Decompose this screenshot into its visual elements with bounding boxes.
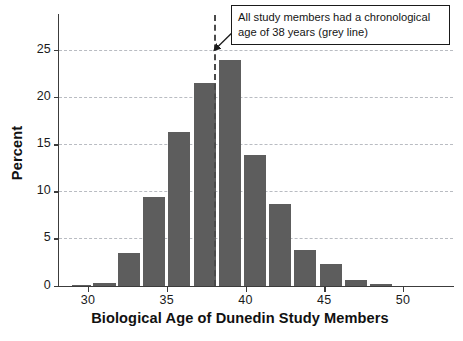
x-tick-label-30: 30 <box>68 293 108 307</box>
histogram-bar <box>269 204 291 286</box>
histogram-bar <box>93 283 117 286</box>
x-tick-mark-30 <box>88 287 89 292</box>
histogram-bar <box>168 132 190 286</box>
histogram-figure: 0510152025 3035404550 All study members … <box>0 0 463 341</box>
x-tick-label-40: 40 <box>226 293 266 307</box>
x-tick-mark-50 <box>403 287 404 292</box>
histogram-bar <box>194 83 216 286</box>
annotation-line-1: All study members had a chronological <box>238 10 443 25</box>
x-tick-mark-40 <box>246 287 247 292</box>
x-tick-mark-35 <box>167 287 168 292</box>
x-tick-label-50: 50 <box>383 293 423 307</box>
histogram-bar <box>320 264 342 286</box>
y-axis-title: Percent <box>9 93 25 213</box>
annotation-callout: All study members had a chronological ag… <box>231 5 450 45</box>
histogram-bar <box>72 285 91 286</box>
x-tick-label-35: 35 <box>147 293 187 307</box>
histogram-bar <box>345 280 367 286</box>
x-tick-label-45: 45 <box>304 293 344 307</box>
histogram-bar <box>118 253 140 286</box>
histogram-bar <box>294 250 316 286</box>
x-axis-title: Biological Age of Dunedin Study Members <box>40 310 440 326</box>
histogram-bar <box>219 60 241 286</box>
x-tick-mark-45 <box>324 287 325 292</box>
histogram-bar <box>143 197 165 286</box>
histogram-bar <box>370 284 392 286</box>
annotation-line-2: age of 38 years (grey line) <box>238 25 443 40</box>
histogram-bar <box>244 155 266 286</box>
